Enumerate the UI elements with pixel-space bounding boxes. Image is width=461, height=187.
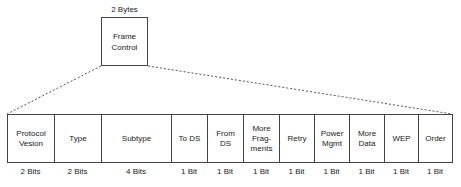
field-cell: Retry xyxy=(280,115,315,162)
field-size: 2 Bits xyxy=(54,167,101,176)
field-size: 1 Bit xyxy=(349,167,384,176)
field-size: 2 Bits xyxy=(7,167,54,176)
field-size: 4 Bits xyxy=(101,167,171,176)
frame-control-label: Frame Control xyxy=(112,31,138,53)
field-cell: Type xyxy=(55,115,102,162)
field-size: 1 Bit xyxy=(243,167,279,176)
field-cell: To DS xyxy=(172,115,208,162)
field-size: 1 Bit xyxy=(384,167,418,176)
field-size: 1 Bit xyxy=(207,167,243,176)
field-sizes: 2 Bits2 Bits4 Bits1 Bit1 Bit1 Bit1 Bit1 … xyxy=(7,167,452,176)
field-size: 1 Bit xyxy=(279,167,314,176)
field-cell: Protocol Vesion xyxy=(8,115,55,162)
field-size: 1 Bit xyxy=(418,167,452,176)
field-cell: WEP xyxy=(385,115,419,162)
field-cell: Order xyxy=(419,115,453,162)
field-cell: Subtype xyxy=(102,115,172,162)
frame-control-fields: Protocol VesionTypeSubtypeTo DSFrom DSMo… xyxy=(7,114,453,163)
frame-control-box: Frame Control xyxy=(101,17,148,66)
field-cell: From DS xyxy=(208,115,244,162)
field-cell: Power Mgmt xyxy=(315,115,350,162)
field-size: 1 Bit xyxy=(171,167,207,176)
frame-control-size: 2 Bytes xyxy=(101,5,148,14)
field-size: 1 Bit xyxy=(314,167,349,176)
field-cell: More Frag- ments xyxy=(244,115,280,162)
field-cell: More Data xyxy=(350,115,385,162)
